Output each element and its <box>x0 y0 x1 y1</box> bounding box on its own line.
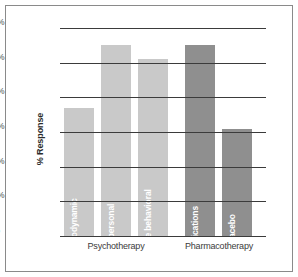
chart-figure: % Response 60%50%40%30%20%10%0%Psychodyn… <box>0 0 298 277</box>
bar-psychodynamic[interactable]: Psychodynamic <box>64 108 94 236</box>
group-label-psychotherapy: Psychotherapy <box>66 241 166 251</box>
gridline <box>60 167 266 168</box>
gridline <box>60 63 266 64</box>
y-axis-tick-label: 20% <box>0 156 24 166</box>
gridline <box>60 28 266 29</box>
y-axis-tick-label: 30% <box>0 121 24 131</box>
y-axis-tick-label: 0% <box>0 225 24 235</box>
y-axis-tick-label: 40% <box>0 86 24 96</box>
bar-interpersonal[interactable]: Interpersonal <box>101 45 131 236</box>
group-label-pharmacotherapy: Pharmacotherapy <box>169 241 269 251</box>
x-axis-line <box>60 236 266 237</box>
gridline <box>60 97 266 98</box>
bar-cognitive-behavioral[interactable]: Cognitive behavioral <box>138 59 168 236</box>
y-axis-tick-label: 10% <box>0 190 24 200</box>
plot-area: 60%50%40%30%20%10%0%PsychodynamicInterpe… <box>60 28 266 236</box>
gridline <box>60 201 266 202</box>
y-axis-tick-label: 50% <box>0 52 24 62</box>
bar-medications[interactable]: Medications <box>185 45 215 236</box>
y-axis-title: % Response <box>35 112 45 165</box>
bar-label: Psychodynamic <box>69 198 79 261</box>
bar-placebo[interactable]: Placebo <box>222 129 252 236</box>
gridline <box>60 132 266 133</box>
y-axis-tick-label: 60% <box>0 17 24 27</box>
